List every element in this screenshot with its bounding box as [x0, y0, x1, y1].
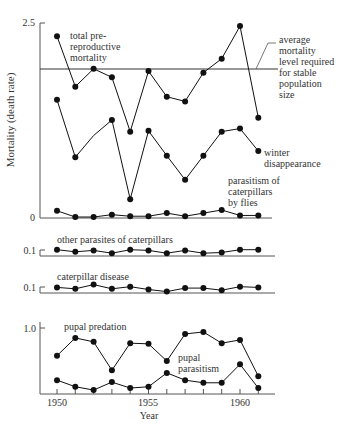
data-point — [255, 115, 261, 121]
pupal-parasitism-label-2: parasitism — [178, 363, 219, 374]
pupal-panel: 1.0 pupal predation pupal parasitism 195… — [24, 321, 276, 421]
data-point — [146, 68, 152, 74]
top-y-tick-label-zero: 0 — [30, 212, 35, 223]
data-point — [164, 358, 170, 364]
total-mortality-label-3: mortality — [70, 52, 107, 63]
other-parasites-series — [54, 247, 261, 257]
other-parasites-panel: other parasites of caterpillars 0.1 — [24, 234, 276, 256]
data-point — [255, 385, 261, 391]
pupal-predation-label: pupal predation — [64, 321, 126, 332]
data-point — [219, 287, 225, 293]
data-point — [219, 129, 225, 135]
series-line — [57, 210, 258, 217]
data-point — [219, 56, 225, 62]
data-point — [200, 380, 206, 386]
total-mortality-label-1: total pre- — [70, 30, 106, 41]
data-point — [72, 249, 78, 255]
data-point — [109, 117, 115, 123]
data-point — [219, 340, 225, 346]
total-mortality-label-2: reproductive — [70, 41, 121, 52]
caterpillar-disease-y-tick-label: 0.1 — [24, 282, 37, 293]
reference-label-3: level required — [279, 56, 334, 67]
data-point — [109, 74, 115, 80]
data-point — [200, 70, 206, 76]
data-point — [200, 285, 206, 291]
data-point — [255, 373, 261, 379]
pupal-parasitism-label-1: pupal — [178, 352, 200, 363]
series-line — [57, 285, 258, 292]
data-point — [72, 214, 78, 220]
flies-label-3: by flies — [228, 197, 258, 208]
data-point — [237, 126, 243, 132]
mortality-figure: 2.5 0 Mortality (death rate) total pre- … — [0, 0, 344, 430]
data-point — [219, 207, 225, 213]
data-point — [182, 331, 188, 337]
bottom-y-tick-label: 1.0 — [24, 323, 37, 334]
data-point — [72, 286, 78, 292]
series-line — [57, 364, 258, 390]
data-point — [255, 284, 261, 290]
data-point — [219, 250, 225, 256]
data-point — [54, 208, 60, 214]
data-point — [127, 340, 133, 346]
pupal-series — [54, 329, 261, 393]
flies-label-2: caterpillars — [228, 186, 273, 197]
data-point — [237, 284, 243, 290]
data-point — [237, 337, 243, 343]
data-point — [146, 287, 152, 293]
data-point — [237, 247, 243, 253]
data-point — [182, 247, 188, 253]
data-point — [146, 384, 152, 390]
flies-label-1: parasitism of — [228, 175, 281, 186]
data-point — [109, 379, 115, 385]
data-point — [91, 247, 97, 253]
winter-label-2: disappearance — [264, 158, 321, 169]
data-point — [164, 250, 170, 256]
reference-label-5: population — [279, 78, 322, 89]
data-point — [182, 213, 188, 219]
reference-label-1: average — [279, 34, 311, 45]
data-point — [54, 33, 60, 39]
data-point — [127, 247, 133, 253]
data-point — [91, 339, 97, 345]
x-axis-title: Year — [140, 410, 159, 421]
data-point — [127, 385, 133, 391]
x-tick-label-1960: 1960 — [230, 397, 250, 408]
data-point — [72, 335, 78, 341]
data-point — [91, 66, 97, 72]
data-point — [54, 377, 60, 383]
y-axis-title: Mortality (death rate) — [4, 72, 17, 167]
data-point — [200, 153, 206, 159]
winter-label-1: winter — [264, 147, 290, 158]
data-point — [200, 210, 206, 216]
data-point — [109, 250, 115, 256]
reference-leader-line — [256, 43, 276, 69]
data-point — [72, 384, 78, 390]
x-tick-label-1950: 1950 — [47, 397, 67, 408]
data-point — [91, 282, 97, 288]
data-point — [255, 148, 261, 154]
data-point — [164, 210, 170, 216]
data-point — [182, 377, 188, 383]
reference-label-4: for stable — [279, 67, 317, 78]
data-point — [54, 353, 60, 359]
caterpillar-disease-panel: caterpillar disease 0.1 — [24, 271, 276, 295]
caterpillar-disease-title: caterpillar disease — [57, 271, 129, 282]
data-point — [127, 213, 133, 219]
data-point — [164, 153, 170, 159]
x-axis-ticks — [57, 389, 258, 394]
data-point — [127, 284, 133, 290]
other-parasites-title: other parasites of caterpillars — [57, 234, 173, 245]
reference-label-2: mortality — [279, 45, 316, 56]
data-point — [200, 329, 206, 335]
data-point — [109, 286, 115, 292]
data-point — [72, 84, 78, 90]
data-point — [109, 367, 115, 373]
data-point — [109, 212, 115, 218]
data-point — [146, 128, 152, 134]
x-tick-label-1955: 1955 — [138, 397, 158, 408]
other-parasites-y-tick-label: 0.1 — [24, 245, 37, 256]
data-point — [146, 247, 152, 253]
data-point — [54, 284, 60, 290]
data-point — [182, 98, 188, 104]
